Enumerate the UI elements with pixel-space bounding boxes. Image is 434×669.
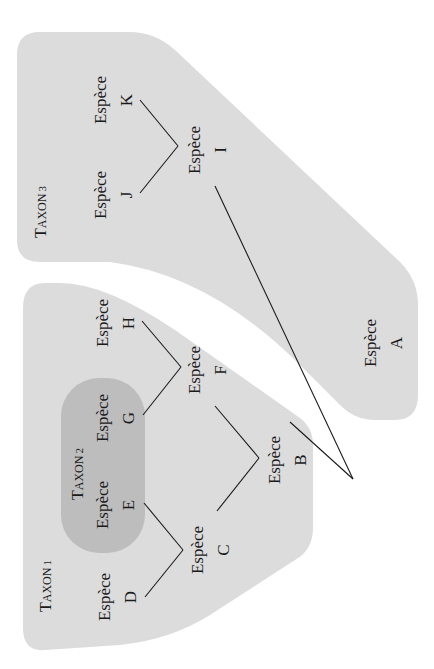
species-K-word: Espèce [91, 76, 110, 124]
species-A-letter: A [387, 336, 406, 349]
taxon1-label: TAXON1 [37, 560, 54, 612]
taxon2-label: TAXON2 [69, 448, 86, 500]
species-E-letter: E [119, 500, 138, 510]
species-C-word: Espèce [188, 526, 207, 574]
species-C-letter: C [214, 544, 233, 555]
species-F-word: Espèce [185, 346, 204, 394]
species-B-letter: B [291, 454, 310, 465]
species-J-word: Espèce [91, 171, 110, 219]
species-H-letter: H [119, 317, 138, 329]
species-K-letter: K [117, 93, 136, 106]
species-B-word: Espèce [265, 436, 284, 484]
phylogeny-diagram: TAXON3 TAXON2 TAXON1 Espèce K Espèce J E… [0, 0, 434, 669]
species-G-letter: G [119, 412, 138, 424]
species-E-word: Espèce [93, 481, 112, 529]
species-D-word: Espèce [95, 573, 114, 621]
species-A-word: Espèce [361, 319, 380, 367]
species-I-letter: I [211, 147, 230, 153]
species-G-word: Espèce [93, 394, 112, 442]
species-H-word: Espèce [93, 299, 112, 347]
species-I-word: Espèce [185, 126, 204, 174]
species-D-letter: D [121, 591, 140, 603]
species-J-letter: J [117, 191, 136, 198]
species-F-letter: F [211, 365, 230, 374]
